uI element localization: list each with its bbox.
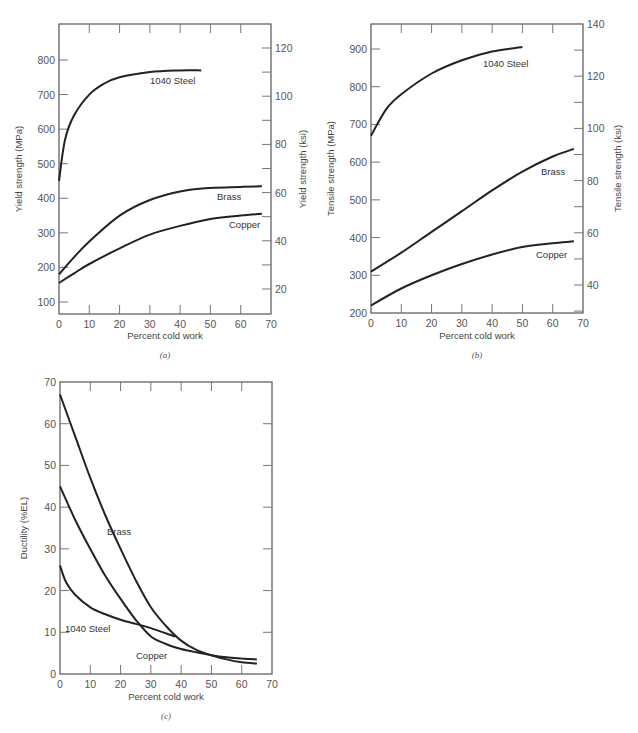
series-label: Copper xyxy=(536,249,567,260)
y-tick-label: 200 xyxy=(37,261,55,273)
y-tick-label: 600 xyxy=(37,123,55,135)
series-label: Brass xyxy=(217,191,242,202)
x-tick-label: 50 xyxy=(206,678,218,690)
y-tick-label: 0 xyxy=(50,668,56,680)
y-tick-label: 600 xyxy=(349,156,367,168)
y-right-tick-label: 120 xyxy=(275,42,293,54)
series-label: Brass xyxy=(541,166,566,177)
y-right-tick-label: 60 xyxy=(587,227,599,239)
x-tick-label: 50 xyxy=(517,317,529,329)
y-axis-title: Tensile strength (MPa) xyxy=(325,121,336,216)
y-right-tick-label: 40 xyxy=(275,235,287,247)
x-tick-label: 10 xyxy=(83,318,95,330)
y-tick-label: 800 xyxy=(349,81,367,93)
y-right-tick-label: 80 xyxy=(275,138,287,150)
y-right-tick-label: 100 xyxy=(275,90,293,102)
panel-caption: (a) xyxy=(160,350,171,360)
y-axis-right-title: Yield strength (ksi) xyxy=(297,130,308,208)
x-tick-label: 20 xyxy=(426,317,438,329)
series-label: 1040 Steel xyxy=(65,623,110,634)
y-tick-label: 70 xyxy=(44,376,56,388)
y-tick-label: 10 xyxy=(44,626,56,638)
x-tick-label: 70 xyxy=(577,317,589,329)
x-tick-label: 0 xyxy=(56,318,62,330)
series-label: 1040 Steel xyxy=(483,58,528,69)
y-right-tick-label: 20 xyxy=(275,283,287,295)
y-right-tick-label: 60 xyxy=(275,187,287,199)
x-axis-title: Percent cold work xyxy=(439,330,515,341)
y-tick-label: 500 xyxy=(349,194,367,206)
x-tick-label: 40 xyxy=(486,317,498,329)
y-tick-label: 900 xyxy=(349,43,367,55)
x-tick-label: 0 xyxy=(368,317,374,329)
x-axis-title: Percent cold work xyxy=(128,691,204,702)
x-tick-label: 60 xyxy=(236,678,248,690)
y-axis-right-title: Tensile strength (ksi) xyxy=(612,125,623,212)
x-tick-label: 70 xyxy=(265,318,277,330)
y-tick-label: 300 xyxy=(37,227,55,239)
x-axis-title: Percent cold work xyxy=(127,330,203,341)
figure-cold-work-properties: 0102030405060701002003004005006007008002… xyxy=(0,0,638,733)
x-tick-label: 60 xyxy=(235,318,247,330)
x-tick-label: 60 xyxy=(547,317,559,329)
plot-frame xyxy=(59,24,271,314)
series-label: Copper xyxy=(229,219,260,230)
y-right-tick-label: 100 xyxy=(587,122,605,134)
chart-panel-c: 010203040506070010203040506070Brass1040 … xyxy=(18,376,278,721)
y-axis-title: Ductility (%EL) xyxy=(18,497,29,559)
x-tick-label: 20 xyxy=(115,678,127,690)
x-tick-label: 70 xyxy=(266,678,278,690)
panel-caption: (b) xyxy=(472,350,483,360)
series-label: Brass xyxy=(107,526,132,537)
x-tick-label: 0 xyxy=(57,678,63,690)
y-tick-label: 30 xyxy=(44,543,56,555)
y-tick-label: 700 xyxy=(37,89,55,101)
y-axis-title: Yield strength (MPa) xyxy=(13,126,24,212)
x-tick-label: 30 xyxy=(145,678,157,690)
y-right-tick-label: 80 xyxy=(587,175,599,187)
y-tick-label: 50 xyxy=(44,459,56,471)
x-tick-label: 40 xyxy=(174,318,186,330)
y-right-tick-label: 120 xyxy=(587,70,605,82)
x-tick-label: 10 xyxy=(84,678,96,690)
x-tick-label: 20 xyxy=(114,318,126,330)
y-tick-label: 200 xyxy=(349,307,367,319)
x-tick-label: 10 xyxy=(395,317,407,329)
y-right-tick-label: 40 xyxy=(587,279,599,291)
chart-panel-a: 0102030405060701002003004005006007008002… xyxy=(13,24,308,360)
x-tick-label: 30 xyxy=(456,317,468,329)
x-tick-label: 40 xyxy=(175,678,187,690)
x-tick-label: 30 xyxy=(144,318,156,330)
y-tick-label: 400 xyxy=(349,232,367,244)
y-tick-label: 20 xyxy=(44,585,56,597)
y-tick-label: 60 xyxy=(44,418,56,430)
chart-panel-b: 0102030405060702003004005006007008009004… xyxy=(325,18,623,360)
series-label: Copper xyxy=(136,650,167,661)
series-label: 1040 Steel xyxy=(150,75,195,86)
y-tick-label: 100 xyxy=(37,296,55,308)
y-tick-label: 700 xyxy=(349,118,367,130)
y-tick-label: 300 xyxy=(349,269,367,281)
y-tick-label: 800 xyxy=(37,54,55,66)
y-right-tick-label: 140 xyxy=(587,18,605,30)
y-tick-label: 40 xyxy=(44,501,56,513)
panel-caption: (c) xyxy=(161,711,171,721)
series-line-1040-steel xyxy=(59,70,201,181)
x-tick-label: 50 xyxy=(205,318,217,330)
y-tick-label: 400 xyxy=(37,192,55,204)
y-tick-label: 500 xyxy=(37,158,55,170)
